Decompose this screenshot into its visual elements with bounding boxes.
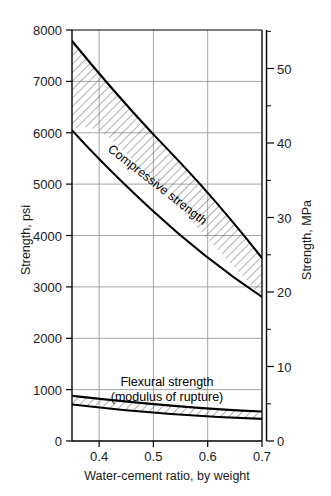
x-tick-label-0-5: 0.5 [144, 449, 162, 464]
left-tick-label-6000: 6000 [33, 126, 62, 141]
left-tick-labels: 8000 7000 6000 5000 4000 3000 2000 1000 … [33, 23, 62, 449]
right-tick-label-0: 0 [277, 434, 284, 449]
right-tick-label-10: 10 [277, 360, 291, 375]
left-tick-label-8000: 8000 [33, 23, 62, 38]
x-tick-label-0-4: 0.4 [90, 449, 108, 464]
right-tick-label-20: 20 [277, 285, 291, 300]
x-axis-title: Water-cement ratio, by weight [84, 469, 250, 483]
x-tick-label-0-7: 0.7 [253, 449, 271, 464]
left-tick-label-5000: 5000 [33, 177, 62, 192]
left-tick-label-3000: 3000 [33, 280, 62, 295]
right-tick-label-30: 30 [277, 211, 291, 226]
right-tick-label-40: 40 [277, 136, 291, 151]
flexural-strength-annotation-line1: Flexural strength [120, 375, 213, 389]
left-tick-label-0: 0 [55, 434, 62, 449]
left-tick-label-2000: 2000 [33, 331, 62, 346]
left-tick-label-7000: 7000 [33, 74, 62, 89]
x-tick-label-0-6: 0.6 [199, 449, 217, 464]
left-tick-label-1000: 1000 [33, 383, 62, 398]
chart-svg: 8000 7000 6000 5000 4000 3000 2000 1000 … [0, 0, 331, 496]
y-axis-title-right: Strength, MPa [300, 200, 314, 280]
right-tick-label-50: 50 [277, 62, 291, 77]
chart-figure: 8000 7000 6000 5000 4000 3000 2000 1000 … [0, 0, 331, 496]
y-axis-title-left: Strength, psi [19, 205, 33, 275]
left-tick-label-4000: 4000 [33, 229, 62, 244]
flexural-strength-annotation-line2: (modulus of rupture) [111, 390, 224, 404]
